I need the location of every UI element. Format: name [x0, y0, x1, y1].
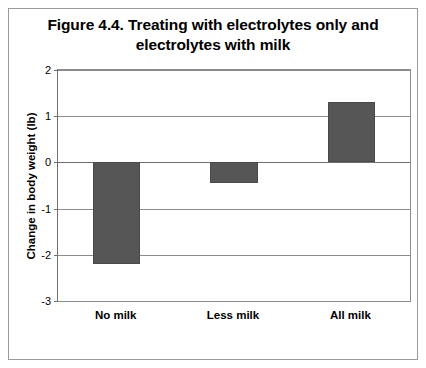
- y-axis-title-label: Change in body weight (lb): [25, 112, 37, 259]
- x-tick-label-no-milk: No milk: [95, 309, 137, 321]
- y-tick-label: 0: [45, 156, 51, 168]
- x-tick-label-all-milk: All milk: [330, 309, 371, 321]
- plot-area: 210-1-2-3: [57, 69, 411, 302]
- x-axis-labels: No milkLess milkAll milk: [57, 309, 411, 329]
- bar-less-milk: [210, 162, 258, 183]
- y-tick-mark-2: [54, 70, 58, 71]
- gridline-2: [58, 70, 410, 71]
- y-tick-label: -1: [41, 203, 51, 215]
- y-tick-mark--1: [54, 209, 58, 210]
- y-tick-label: 2: [45, 64, 51, 76]
- y-axis-title: Change in body weight (lb): [23, 69, 39, 302]
- y-tick-mark--2: [54, 255, 58, 256]
- y-tick-mark-0: [54, 162, 58, 163]
- chart-title: Figure 4.4. Treating with electrolytes o…: [19, 15, 407, 55]
- y-tick-label: 1: [45, 110, 51, 122]
- figure-frame: Figure 4.4. Treating with electrolytes o…: [8, 8, 418, 360]
- bar-all-milk: [328, 102, 376, 162]
- gridline--3: [58, 301, 410, 302]
- y-tick-mark-1: [54, 116, 58, 117]
- y-tick-mark--3: [54, 301, 58, 302]
- y-axis-line: [57, 69, 58, 302]
- x-tick-label-less-milk: Less milk: [207, 309, 259, 321]
- bar-no-milk: [93, 162, 141, 264]
- y-tick-label: -3: [41, 295, 51, 307]
- y-tick-label: -2: [41, 249, 51, 261]
